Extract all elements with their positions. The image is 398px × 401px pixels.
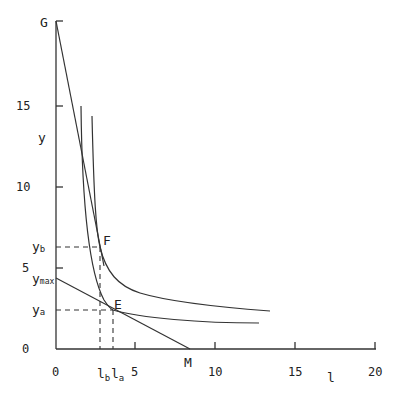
y-tick-label-5: 5 xyxy=(22,261,29,275)
label-ymax: ymax xyxy=(32,271,54,286)
label-yb: yb xyxy=(32,239,45,254)
label-ya: ya xyxy=(32,302,45,317)
point-label-F: F xyxy=(103,233,111,248)
x-tick-label-10: 10 xyxy=(208,365,222,379)
label-la: la xyxy=(111,366,124,383)
point-label-E: E xyxy=(114,297,122,312)
point-label-M: M xyxy=(184,355,192,370)
indifference-curve-low xyxy=(81,106,259,323)
x-tick-label-20: 20 xyxy=(368,365,382,379)
x-axis-title: l xyxy=(327,370,335,385)
x-tick-label-0: 0 xyxy=(52,365,59,379)
y-axis-title: y xyxy=(38,130,46,145)
indifference-curve-high xyxy=(92,116,270,311)
diagram-canvas: 0 5 10 15 0 5 10 15 20 y l G F E M yb ym… xyxy=(0,0,398,401)
y-tick-label-10: 10 xyxy=(16,180,30,194)
y-tick-label-0: 0 xyxy=(22,342,29,356)
label-lb: lb xyxy=(97,366,110,383)
point-label-G: G xyxy=(40,15,48,30)
x-tick-label-15: 15 xyxy=(288,365,302,379)
x-tick-label-5: 5 xyxy=(131,365,138,379)
y-tick-label-15: 15 xyxy=(16,99,30,113)
budget-line-flat xyxy=(56,278,190,349)
